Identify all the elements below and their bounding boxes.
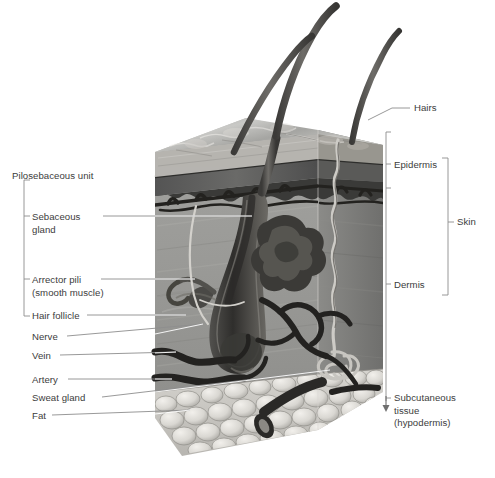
hair-shaft xyxy=(276,6,336,136)
label-sebaceous-gland: Sebaceousgland xyxy=(32,211,80,236)
label-nerve: Nerve xyxy=(32,331,58,344)
label-hairs: Hairs xyxy=(414,102,437,115)
label-subcutaneous-line3: (hypodermis) xyxy=(394,417,451,428)
label-epidermis: Epidermis xyxy=(394,159,437,172)
bracket-pilosebaceous-unit xyxy=(24,180,30,316)
label-sebaceous-gland-line2: gland xyxy=(32,224,56,235)
label-arrector-pili-line2: (smooth muscle) xyxy=(32,287,104,298)
label-vein: Vein xyxy=(32,350,51,363)
label-dermis: Dermis xyxy=(394,279,425,292)
leader-line-hairs xyxy=(368,108,410,120)
bracket-skin xyxy=(442,158,454,295)
label-subcutaneous-tissue: Subcutaneoustissue(hypodermis) xyxy=(394,392,456,430)
hair-bulb xyxy=(220,333,262,371)
label-sweat-gland: Sweat gland xyxy=(32,392,85,405)
label-arrector-pili: Arrector pili(smooth muscle) xyxy=(32,274,104,299)
label-hair-follicle: Hair follicle xyxy=(32,310,80,323)
hair-shaft xyxy=(352,31,399,142)
label-subcutaneous-line2: tissue xyxy=(394,405,419,416)
leader-hairs xyxy=(368,108,410,120)
label-pilosebaceous-unit: Pilosebaceous unit xyxy=(12,170,93,183)
label-skin: Skin xyxy=(457,216,476,229)
label-fat: Fat xyxy=(32,410,46,423)
bracket-skin-layers xyxy=(386,132,391,401)
label-artery: Artery xyxy=(32,374,58,387)
skin-anatomy-figure: Pilosebaceous unit Sebaceousgland Arrect… xyxy=(0,0,495,478)
label-sebaceous-gland-line1: Sebaceous xyxy=(32,211,80,222)
label-subcutaneous-line1: Subcutaneous xyxy=(394,392,456,403)
label-arrector-pili-line1: Arrector pili xyxy=(32,274,81,285)
